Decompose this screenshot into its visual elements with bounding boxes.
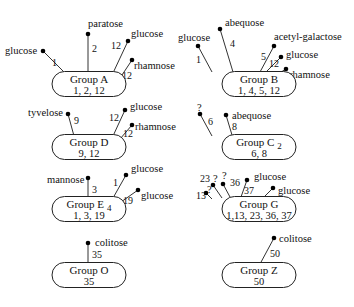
antigen-group-diagram: glucose1paratose2glucose12rhamnose12Grou…: [0, 0, 354, 307]
group-title: Group D: [70, 136, 109, 148]
branch-line: [213, 185, 222, 198]
sugar-branch: ?36: [221, 170, 240, 197]
sugar-label: glucose: [131, 163, 163, 174]
factor-number: 50: [270, 248, 280, 259]
group-o: colitose35Group O35: [52, 237, 128, 288]
sugar-label: acetyl-galactose: [274, 31, 342, 42]
sugar-dot-icon: [66, 112, 71, 117]
sugar-dot-icon: [224, 113, 229, 118]
sugar-dot-icon: [272, 44, 277, 49]
group-d: tyvelose9glucose12rhamnose12Group D9, 12: [28, 101, 176, 160]
group-title: Group B: [240, 73, 278, 85]
sugar-dot-icon: [123, 108, 128, 113]
factor-number: 36: [230, 177, 240, 188]
sugar-label: glucose: [141, 190, 173, 201]
sugar-label: abequose: [225, 17, 264, 28]
group-factors: 6, 8: [251, 148, 267, 159]
sugar-branch: rhamnose12: [120, 121, 176, 139]
factor-number: 13: [196, 190, 206, 201]
sugar-label: abequose: [232, 110, 271, 121]
group-title: Group Z: [240, 264, 278, 276]
sugar-label: glucose: [278, 185, 310, 196]
sugar-label: rhamnose: [135, 121, 176, 132]
factor-number: 12: [111, 40, 121, 51]
sugar-branch: abequose4: [218, 17, 265, 72]
sugar-label: ?: [222, 170, 227, 181]
group-g: ?13?23?36glucose37glucose1Group G1,13, 2…: [196, 170, 310, 222]
sugar-label: rhamnose: [134, 60, 175, 71]
factor-number: 9: [74, 115, 79, 126]
sugar-branch: tyvelose9: [28, 107, 79, 136]
group-factors: 1, 2, 12: [73, 85, 105, 96]
factor-number: 2: [92, 43, 97, 54]
factor-number: 37: [244, 185, 254, 196]
sugar-dot-icon: [284, 67, 289, 72]
sugar-label: glucose: [131, 28, 163, 39]
factor-number: 3: [92, 184, 97, 195]
sugar-label: tyvelose: [28, 107, 63, 118]
sugar-dot-icon: [86, 241, 91, 246]
factor-number: 12: [123, 128, 133, 139]
group-subscript: 2: [277, 141, 282, 151]
sugar-branch: ?13: [196, 184, 212, 201]
group-factors: 1,13, 23, 36, 37: [226, 210, 292, 221]
sugar-dot-icon: [221, 182, 226, 187]
sugar-branch: ?6: [197, 102, 213, 136]
sugar-label: ?: [213, 173, 218, 184]
sugar-dot-icon: [271, 186, 276, 191]
sugar-label: glucose: [130, 101, 162, 112]
sugar-dot-icon: [136, 188, 141, 193]
group-factors: 50: [254, 276, 265, 287]
sugar-dot-icon: [279, 55, 284, 60]
factor-number: 35: [92, 249, 102, 260]
sugar-dot-icon: [272, 236, 277, 241]
sugar-dot-icon: [245, 178, 250, 183]
sugar-dot-icon: [86, 176, 91, 181]
sugar-branch: glucose1: [178, 32, 212, 72]
group-factors: 35: [84, 276, 95, 287]
sugar-branch: colitose50: [260, 233, 312, 264]
group-z: colitose50Group Z50: [222, 233, 312, 288]
group-c2: ?6abequose8Group C26, 8: [197, 102, 296, 160]
factor-number: 12: [269, 58, 279, 69]
factor-number: 5: [261, 51, 266, 62]
group-subscript: 4: [107, 203, 112, 213]
sugar-label: paratose: [88, 18, 123, 29]
sugar-dot-icon: [196, 44, 201, 49]
sugar-label: mannose: [47, 174, 85, 185]
sugar-label: glucose: [254, 171, 286, 182]
factor-number: 4: [230, 38, 235, 49]
sugar-dot-icon: [218, 27, 223, 32]
group-factors: 1, 4, 5, 12: [238, 85, 280, 96]
group-title: Group O: [70, 264, 109, 276]
sugar-label: glucose: [178, 32, 210, 43]
factor-number: 23: [200, 173, 210, 184]
group-title: Group A: [70, 73, 108, 85]
sugar-dot-icon: [130, 123, 135, 128]
factor-number: 12: [109, 112, 119, 123]
factor-number: 6: [208, 116, 213, 127]
sugar-branch: abequose8: [224, 110, 272, 135]
factor-number: 1: [113, 177, 118, 188]
sugar-label: colitose: [279, 233, 312, 244]
sugar-dot-icon: [124, 173, 129, 178]
group-title: Group G: [240, 198, 279, 210]
group-a: glucose1paratose2glucose12rhamnose12Grou…: [5, 18, 175, 97]
sugar-label: colitose: [95, 237, 128, 248]
branch-line: [220, 29, 233, 72]
sugar-label: ?: [197, 102, 202, 113]
group-b: glucose1abequose4acetyl-galactose5glucos…: [178, 17, 342, 97]
sugar-dot-icon: [126, 39, 131, 44]
sugar-branch: mannose3: [47, 174, 97, 198]
sugar-branch: glucose19: [121, 188, 173, 206]
sugar-label: glucose: [286, 49, 318, 60]
sugar-dot-icon: [41, 49, 46, 54]
sugar-label: glucose: [5, 45, 37, 56]
sugar-branch: rhamnose12: [120, 58, 175, 81]
factor-number: 1: [196, 54, 201, 65]
group-factors: 1, 3, 19: [73, 210, 105, 221]
group-e4: mannose3glucose1glucose19Group E41, 3, 1…: [47, 163, 173, 222]
group-factors: 9, 12: [79, 148, 100, 159]
sugar-branch: glucose1: [5, 45, 65, 73]
sugar-branch: colitose35: [86, 237, 128, 264]
